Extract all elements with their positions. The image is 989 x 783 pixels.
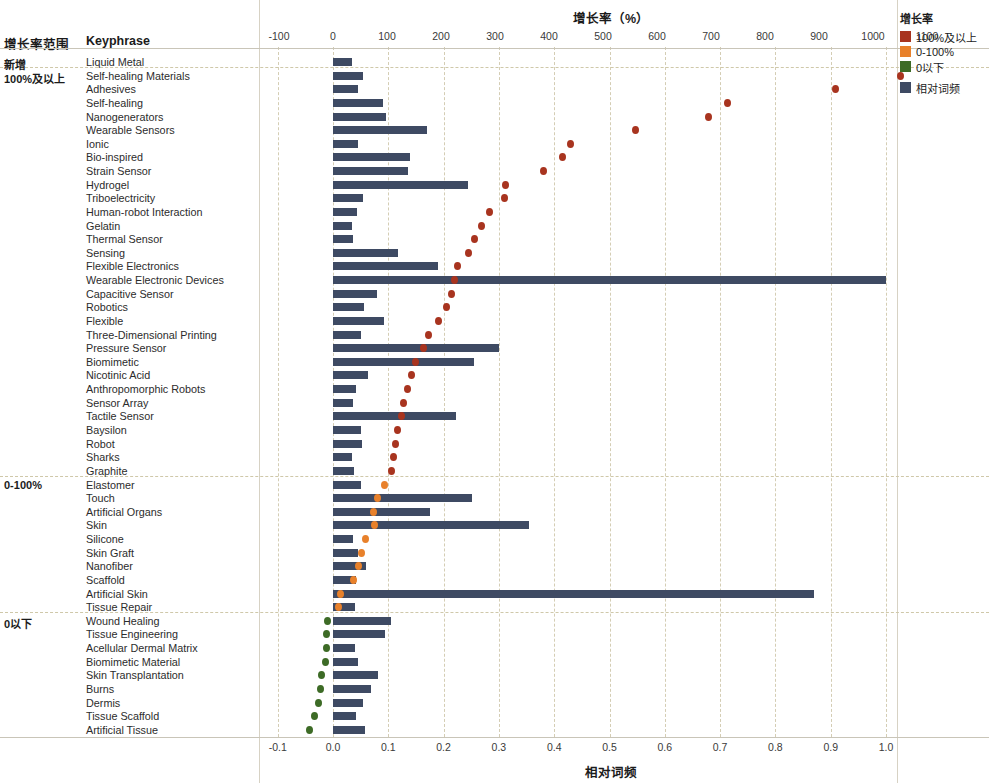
legend-item-label: 0-100% [916,46,954,58]
growth-rate-dot [632,126,639,134]
frequency-bar [333,426,361,434]
growth-rate-dot [324,617,331,625]
growth-rate-dot [381,481,388,489]
growth-rate-dot [371,521,378,529]
growth-rate-dot [435,317,442,325]
growth-rate-dot [390,453,397,461]
frequency-bar [333,617,391,625]
frequency-bar [333,481,361,489]
growth-rate-dot [425,331,432,339]
growth-rate-dot [358,549,365,557]
frequency-bar [333,194,363,202]
growth-rate-dot [448,290,455,298]
frequency-bar [333,181,468,189]
frequency-bar [333,726,365,734]
frequency-bar [333,249,398,257]
frequency-bar [333,85,358,93]
frequency-bar [333,317,384,325]
growth-rate-dot [559,153,566,161]
growth-rate-dot [443,303,450,311]
growth-rate-dot [374,494,381,502]
frequency-bar [333,113,386,121]
frequency-bar [333,535,353,543]
legend-item-bar[interactable]: 相对词频 [900,80,977,95]
growth-rate-dot [311,712,318,720]
growth-rate-dot [486,208,493,216]
frequency-bar [333,358,474,366]
growth-rate-dot [315,699,322,707]
growth-rate-dot [306,726,313,734]
frequency-bar [333,167,408,175]
frequency-bar [333,412,456,420]
growth-rate-dot [317,685,324,693]
growth-rate-dot [318,671,325,679]
frequency-bar [333,99,383,107]
legend-swatch-icon [900,31,911,42]
legend-item-label: 相对词频 [916,80,960,96]
growth-rate-dot [465,249,472,257]
frequency-bar [333,521,529,529]
frequency-bar [333,235,353,243]
frequency-bar [333,590,814,598]
growth-rate-dot [323,644,330,652]
legend-item-label: 0以下 [916,59,944,75]
frequency-bar [333,222,352,230]
frequency-bar [333,153,410,161]
frequency-bar [333,208,357,216]
frequency-bar [333,630,385,638]
growth-rate-dot [322,658,329,666]
frequency-bar [333,467,354,475]
growth-rate-dot [705,113,712,121]
frequency-bar [333,344,499,352]
frequency-bar [333,276,886,284]
frequency-bar [333,685,371,693]
growth-rate-dot [388,467,395,475]
legend-item[interactable]: 0-100% [900,44,977,59]
legend-item[interactable]: 0以下 [900,59,977,74]
frequency-bar [333,72,363,80]
frequency-bar [333,262,438,270]
frequency-bar [333,453,352,461]
legend-swatch-icon [900,82,911,93]
frequency-bar [333,399,353,407]
frequency-bar [333,331,361,339]
legend-item[interactable]: 100%及以上 [900,29,977,44]
growth-rate-dot [394,426,401,434]
frequency-bar [333,126,427,134]
growth-rate-dot [398,412,405,420]
frequency-bar [333,699,363,707]
growth-rate-dot [362,535,369,543]
frequency-bar [333,440,362,448]
frequency-bar [333,508,430,516]
growth-rate-dot [567,140,574,148]
frequency-bar [333,140,358,148]
frequency-bar [333,58,352,66]
growth-rate-dot [832,85,839,93]
frequency-bar [333,371,368,379]
growth-rate-dot [471,235,478,243]
frequency-bar [333,644,355,652]
growth-rate-dot [454,262,461,270]
plot-marks [0,0,989,783]
growth-rate-dot [400,399,407,407]
growth-rate-dot [502,181,509,189]
growth-rate-dot [370,508,377,516]
frequency-bar [333,712,356,720]
frequency-bar [333,303,364,311]
frequency-bar [333,290,377,298]
legend-items: 100%及以上0-100%0以下相对词频 [900,29,977,95]
legend: 增长率 100%及以上0-100%0以下相对词频 [900,10,977,95]
frequency-bar [333,549,358,557]
frequency-bar [333,385,356,393]
legend-title: 增长率 [900,10,977,26]
growth-rate-dot [724,99,731,107]
growth-rate-dot [412,358,419,366]
growth-rate-dot [408,371,415,379]
growth-rate-dot [323,630,330,638]
chart-root: 增长率范围 Keyphrase 增长率（%） 相对词频 -10001002003… [0,0,989,783]
frequency-bar [333,494,472,502]
growth-rate-dot [501,194,508,202]
growth-rate-dot [392,440,399,448]
legend-item-label: 100%及以上 [916,29,977,45]
growth-rate-dot [478,222,485,230]
